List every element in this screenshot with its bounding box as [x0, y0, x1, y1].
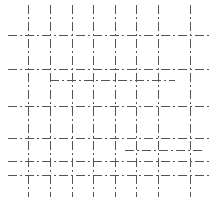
dash-dot-grid-diagram: [0, 0, 218, 210]
vertical-lines: [29, 5, 191, 197]
grid-svg: [0, 0, 218, 210]
horizontal-lines: [8, 36, 212, 176]
